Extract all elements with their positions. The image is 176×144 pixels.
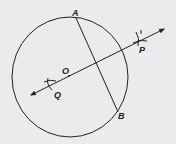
circle bbox=[12, 17, 128, 137]
chord-ab bbox=[76, 18, 118, 112]
bisector-line bbox=[31, 29, 164, 95]
diagram-canvas: A B O P Q bbox=[0, 0, 176, 144]
arc-q-2 bbox=[44, 80, 56, 82]
geometry-diagram: A B O P Q bbox=[0, 0, 176, 144]
arc-p-2 bbox=[133, 40, 147, 43]
label-q: Q bbox=[54, 90, 61, 100]
label-o: O bbox=[62, 66, 69, 76]
arc-p-1 bbox=[136, 32, 139, 46]
label-p: P bbox=[139, 45, 146, 55]
label-a: A bbox=[71, 8, 79, 18]
label-b: B bbox=[118, 111, 125, 121]
